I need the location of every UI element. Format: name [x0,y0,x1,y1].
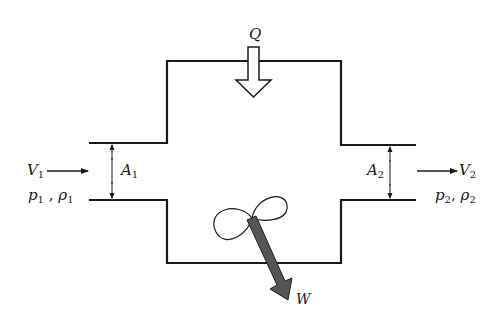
work-label: W [296,292,310,306]
heat-label: Q [249,27,261,42]
heat-input-arrow-icon [236,47,271,97]
inlet-area-label: A1 [121,163,138,180]
inlet-state-label: p1 , ρ1 [28,188,74,205]
outlet-state-label: p2, ρ2 [435,188,476,205]
work-output-arrow-icon [247,216,292,300]
inlet-velocity-label: V1 [27,163,44,180]
control-volume-diagram [0,0,500,334]
outlet-area-label: A2 [367,163,384,180]
outlet-velocity-label: V2 [459,163,476,180]
